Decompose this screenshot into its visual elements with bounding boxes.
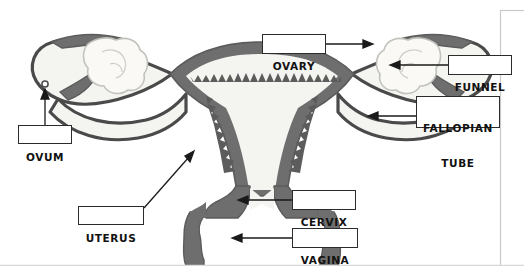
label-vagina[interactable]: VAGINA (292, 228, 358, 248)
label-ovum-line-0: OVUM (24, 152, 66, 164)
arrowhead-ovary (363, 40, 373, 48)
label-uterus[interactable]: UTERUS (78, 206, 144, 225)
diagram-stage: OVUM UTERUS OVARY FUNNEL FALLOPIAN TUBE … (0, 0, 524, 266)
label-fallopian-tube-line-0: FALLOPIAN (422, 123, 494, 135)
label-funnel-line-0: FUNNEL (454, 82, 506, 94)
label-cervix-line-0: CERVIX (298, 217, 350, 229)
ovum (42, 81, 48, 87)
label-ovary-line-0: OVARY (268, 61, 320, 73)
label-cervix[interactable]: CERVIX (292, 190, 356, 210)
label-ovary[interactable]: OVARY (262, 34, 326, 54)
label-funnel[interactable]: FUNNEL (448, 55, 512, 75)
arrowhead-vagina (232, 234, 242, 242)
label-fallopian-tube[interactable]: FALLOPIAN TUBE (416, 96, 500, 128)
leader-uterus (144, 157, 189, 208)
label-fallopian-tube-line-1: TUBE (422, 158, 494, 170)
uterus (170, 42, 354, 196)
label-uterus-line-0: UTERUS (84, 233, 138, 245)
label-ovum[interactable]: OVUM (18, 125, 72, 144)
label-vagina-line-0: VAGINA (298, 255, 352, 266)
